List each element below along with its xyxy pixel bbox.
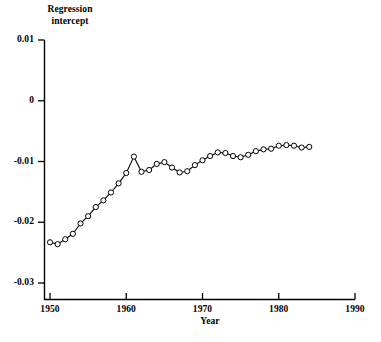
data-point-marker: [124, 170, 129, 175]
data-point-marker: [86, 214, 91, 219]
x-tick-marks: [50, 293, 355, 300]
data-point-marker: [230, 153, 235, 158]
data-point-marker: [47, 240, 52, 245]
data-point-marker: [185, 169, 190, 174]
data-point-marker: [169, 165, 174, 170]
data-point-marker: [200, 158, 205, 163]
data-point-marker: [139, 169, 144, 174]
data-point-marker: [291, 143, 296, 148]
plot-area: [0, 0, 381, 342]
data-line: [50, 145, 309, 244]
data-point-marker: [70, 231, 75, 236]
axes-group: [38, 40, 355, 300]
data-point-marker: [147, 167, 152, 172]
data-markers: [47, 143, 311, 247]
regression-intercept-chart: Regression intercept Year 0.010-0.01-0.0…: [0, 0, 381, 342]
data-point-marker: [162, 160, 167, 165]
data-point-marker: [307, 144, 312, 149]
data-point-marker: [55, 242, 60, 247]
data-point-marker: [269, 146, 274, 151]
data-point-marker: [284, 143, 289, 148]
data-point-marker: [63, 237, 68, 242]
data-point-marker: [101, 198, 106, 203]
data-point-marker: [261, 147, 266, 152]
data-point-marker: [131, 154, 136, 159]
data-point-marker: [154, 161, 159, 166]
data-point-marker: [93, 204, 98, 209]
data-point-marker: [177, 170, 182, 175]
data-point-marker: [78, 221, 83, 226]
data-point-marker: [215, 150, 220, 155]
data-point-marker: [276, 143, 281, 148]
data-point-marker: [192, 163, 197, 168]
data-point-marker: [108, 190, 113, 195]
data-point-marker: [299, 145, 304, 150]
data-point-marker: [208, 153, 213, 158]
y-tick-marks: [38, 40, 45, 283]
data-point-marker: [223, 150, 228, 155]
data-point-marker: [246, 152, 251, 157]
data-point-marker: [253, 149, 258, 154]
data-point-marker: [116, 181, 121, 186]
data-point-marker: [238, 155, 243, 160]
